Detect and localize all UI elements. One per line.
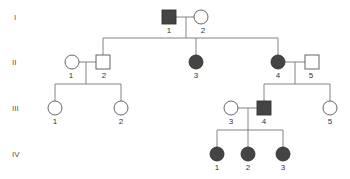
individual-number: 5 [328,117,333,126]
individual-number: 2 [119,117,124,126]
individual-number: 3 [194,71,199,80]
individual-III-2-unaffected-female [114,101,128,115]
individual-number: 1 [215,163,220,172]
individual-number: 5 [309,71,314,80]
individual-II-5-unaffected-male [305,55,319,69]
individual-number: 1 [53,117,58,126]
individual-II-2-unaffected-male [96,55,110,69]
individual-IV-3-affected-female [276,147,290,161]
individual-number: 3 [229,117,234,126]
individual-number: 1 [69,71,74,80]
connector-lines [55,17,330,147]
individual-III-1-unaffected-female [48,101,62,115]
individual-IV-1-affected-female [210,147,224,161]
individual-I-1-affected-male [162,10,176,24]
individual-II-4-affected-female [271,55,285,69]
individual-I-2-unaffected-female [194,10,208,24]
individual-II-3-affected-female [189,55,203,69]
individual-III-3-unaffected-female [224,101,238,115]
individual-number: 2 [102,71,107,80]
individual-number: 4 [276,71,281,80]
individual-II-1-unaffected-female [65,55,79,69]
individual-number: 2 [246,163,251,172]
individual-III-5-unaffected-female [323,101,337,115]
individual-number: 1 [167,26,172,35]
individual-IV-2-affected-female [241,147,255,161]
individual-number: 4 [262,117,267,126]
individual-number: 2 [201,26,206,35]
pedigree-chart: I II III IV [0,0,350,179]
individual-III-4-affected-male [257,101,271,115]
generation-label-IV: IV [12,150,20,159]
generation-label-II: II [12,58,16,67]
individual-number: 3 [281,163,286,172]
generation-label-III: III [12,104,19,113]
generation-label-I: I [14,13,16,22]
